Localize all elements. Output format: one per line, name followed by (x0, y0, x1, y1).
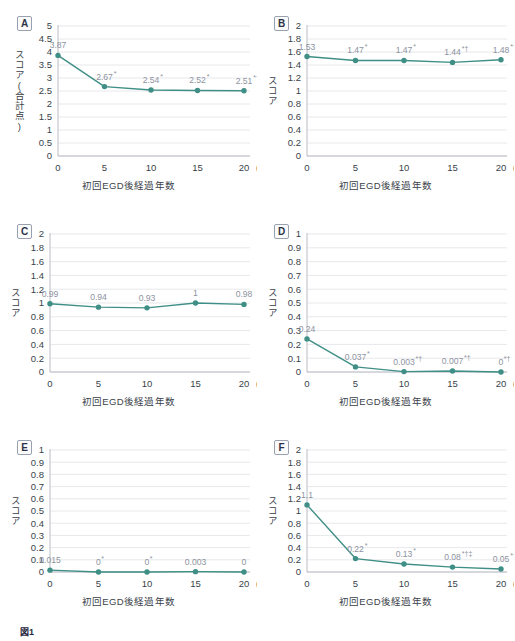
svg-text:1.1: 1.1 (301, 490, 313, 500)
svg-text:15: 15 (447, 578, 458, 589)
svg-text:0: 0 (39, 566, 44, 577)
svg-text:10: 10 (399, 578, 410, 589)
svg-text:0.93: 0.93 (139, 293, 156, 303)
svg-text:*†: *† (504, 355, 511, 362)
svg-text:2.54: 2.54 (143, 75, 160, 85)
svg-text:20: 20 (239, 578, 250, 589)
svg-text:0.007: 0.007 (442, 356, 464, 366)
svg-text:2: 2 (39, 228, 44, 239)
svg-text:0.6: 0.6 (31, 493, 44, 504)
svg-text:2.67: 2.67 (96, 72, 113, 82)
svg-text:1.6: 1.6 (31, 256, 44, 267)
svg-text:0.4: 0.4 (288, 542, 301, 553)
svg-text:1.8: 1.8 (31, 242, 44, 253)
svg-text:0.8: 0.8 (288, 256, 301, 267)
svg-text:*: * (114, 70, 117, 77)
svg-text:5: 5 (102, 162, 107, 173)
chart-svg-c: 00.20.40.60.811.21.41.61.8205101520(年)0.… (0, 208, 257, 424)
svg-text:0: 0 (47, 578, 52, 589)
svg-text:*†‡: *†‡ (462, 550, 473, 557)
svg-text:15: 15 (190, 578, 201, 589)
svg-text:0.015: 0.015 (39, 555, 61, 565)
svg-text:1.47: 1.47 (396, 45, 413, 55)
svg-text:0.7: 0.7 (288, 270, 301, 281)
svg-text:1: 1 (193, 288, 198, 298)
figure-panel-grid: Aスコア(合計点)00.511.522.533.544.5505101520(年… (0, 0, 515, 641)
svg-text:0: 0 (304, 378, 309, 389)
svg-text:0.5: 0.5 (39, 137, 52, 148)
svg-text:20: 20 (239, 162, 250, 173)
svg-text:0.8: 0.8 (31, 469, 44, 480)
svg-text:0.24: 0.24 (299, 324, 316, 334)
svg-text:(年): (年) (513, 378, 514, 389)
svg-text:(年): (年) (513, 578, 514, 589)
chart-panel-c: Cスコア00.20.40.60.811.21.41.61.8205101520(… (0, 208, 257, 424)
svg-text:20: 20 (496, 378, 507, 389)
svg-text:0.4: 0.4 (288, 311, 301, 322)
svg-text:0: 0 (47, 150, 52, 161)
svg-text:0.2: 0.2 (288, 339, 301, 350)
x-axis-label-a: 初回EGD後経過年数 (0, 178, 257, 192)
svg-text:0.3: 0.3 (31, 530, 44, 541)
svg-text:0: 0 (47, 378, 52, 389)
svg-text:3.5: 3.5 (39, 59, 52, 70)
svg-text:0.13: 0.13 (396, 549, 413, 559)
svg-text:0.003: 0.003 (185, 557, 207, 567)
svg-text:0.98: 0.98 (236, 289, 253, 299)
svg-text:*: * (365, 43, 368, 50)
svg-text:*: * (207, 73, 210, 80)
svg-text:0.5: 0.5 (31, 505, 44, 516)
svg-text:*†‡: *†‡ (510, 552, 514, 559)
svg-text:0.99: 0.99 (42, 289, 59, 299)
svg-text:20: 20 (496, 162, 507, 173)
svg-text:*: * (101, 555, 104, 562)
svg-text:2: 2 (296, 444, 301, 455)
svg-text:0.6: 0.6 (288, 284, 301, 295)
svg-text:15: 15 (192, 162, 203, 173)
svg-text:1: 1 (47, 124, 52, 135)
svg-text:*†‡: *†‡ (510, 43, 514, 50)
svg-text:0.2: 0.2 (288, 554, 301, 565)
chart-svg-a: 00.511.522.533.544.5505101520(年)3.872.67… (0, 0, 257, 208)
svg-text:3: 3 (47, 72, 52, 83)
svg-text:20: 20 (239, 378, 250, 389)
svg-text:1.4: 1.4 (288, 481, 301, 492)
chart-svg-d: 00.10.20.30.40.50.60.70.80.9105101520(年)… (257, 208, 514, 424)
svg-text:1: 1 (296, 228, 301, 239)
svg-text:15: 15 (447, 378, 458, 389)
svg-text:0.08: 0.08 (444, 552, 461, 562)
svg-text:0.6: 0.6 (288, 111, 301, 122)
svg-text:0.2: 0.2 (31, 353, 44, 364)
svg-text:1: 1 (39, 297, 44, 308)
svg-text:10: 10 (142, 578, 153, 589)
x-axis-label-f: 初回EGD後経過年数 (257, 594, 514, 608)
svg-text:0.6: 0.6 (288, 530, 301, 541)
svg-text:0.8: 0.8 (288, 98, 301, 109)
svg-text:15: 15 (447, 162, 458, 173)
chart-panel-e: Eスコア00.10.20.30.40.50.60.70.80.910510152… (0, 424, 257, 624)
svg-text:1.2: 1.2 (288, 72, 301, 83)
svg-text:(年): (年) (513, 162, 514, 173)
svg-text:1.6: 1.6 (288, 469, 301, 480)
svg-text:*: * (160, 73, 163, 80)
svg-text:1.4: 1.4 (31, 270, 44, 281)
x-axis-label-b: 初回EGD後経過年数 (257, 178, 514, 192)
svg-text:10: 10 (399, 162, 410, 173)
chart-panel-b: Bスコア00.20.40.60.811.21.41.61.8205101520(… (257, 0, 514, 208)
svg-text:2.52: 2.52 (189, 75, 206, 85)
svg-text:0.94: 0.94 (90, 292, 107, 302)
svg-text:0: 0 (242, 557, 247, 567)
svg-text:2: 2 (47, 98, 52, 109)
svg-text:*†: *† (416, 355, 423, 362)
chart-panel-d: Dスコア00.10.20.30.40.50.60.70.80.910510152… (257, 208, 514, 424)
svg-text:0.1: 0.1 (288, 353, 301, 364)
svg-text:0: 0 (39, 366, 44, 377)
svg-text:*: * (365, 542, 368, 549)
svg-text:0.22: 0.22 (347, 544, 364, 554)
svg-text:0.5: 0.5 (288, 297, 301, 308)
svg-text:*: * (367, 350, 370, 357)
svg-text:10: 10 (146, 162, 157, 173)
svg-text:1: 1 (296, 85, 301, 96)
svg-text:1.2: 1.2 (288, 493, 301, 504)
svg-text:15: 15 (190, 378, 201, 389)
